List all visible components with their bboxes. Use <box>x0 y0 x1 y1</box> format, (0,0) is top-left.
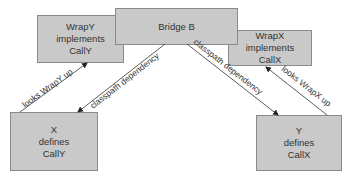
edge-label-looks-wrapy-up: looks WrapY up <box>20 66 74 109</box>
edge-label-looks-wrapx-up: looks WrapX up <box>280 64 334 109</box>
edges-layer: looks WrapY up classpath dependency clas… <box>0 0 353 181</box>
edge-bridge-to-y <box>187 44 278 115</box>
edge-label-classpath-right: classpath dependency <box>192 37 265 97</box>
edge-label-classpath-left: classpath dependency <box>88 50 161 110</box>
